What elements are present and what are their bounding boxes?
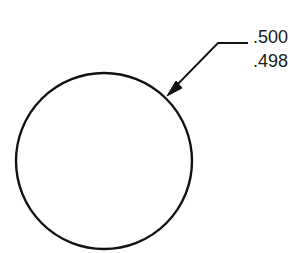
upper-limit-dimension: .500 [253, 28, 288, 46]
hole-circle [16, 73, 192, 249]
lower-limit-dimension: .498 [253, 52, 288, 70]
leader-line [172, 43, 248, 90]
